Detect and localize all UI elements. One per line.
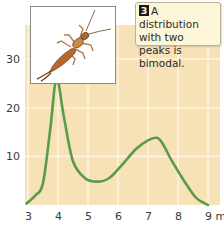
y-tick-label: 10: [6, 150, 20, 163]
x-tick-label: 3: [25, 210, 32, 223]
x-tick-label: 8: [175, 210, 182, 223]
annotation-box: 3A distribution with two peaks is bimoda…: [135, 2, 221, 46]
earwig-photo: [30, 6, 116, 84]
x-tick-label: 7: [145, 210, 152, 223]
x-tick-label: 5: [85, 210, 92, 223]
y-axis-ticks: 102030: [6, 53, 20, 163]
annotation-line-2: with two: [139, 31, 217, 44]
annotation-line-3: peaks is bimodal.: [139, 44, 217, 70]
y-tick-label: 30: [6, 53, 20, 66]
x-axis-ticks: 3456789 mm: [25, 210, 224, 223]
x-tick-label: 4: [55, 210, 62, 223]
step-number-badge: 3: [139, 5, 149, 16]
earwig-icon: [31, 7, 115, 83]
x-tick-label: 6: [115, 210, 122, 223]
y-tick-label: 20: [6, 102, 20, 115]
annotation-line-1: 3A distribution: [139, 5, 217, 31]
x-tick-label: 9 mm: [205, 210, 224, 223]
